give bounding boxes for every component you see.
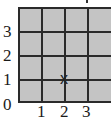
y-axis-label-0: 0	[3, 96, 12, 113]
coordinate-grid	[18, 7, 111, 103]
y-axis-label-1: 1	[3, 71, 12, 88]
point-marker: x	[60, 71, 68, 87]
grid-line-horizontal	[18, 31, 111, 33]
grid-line-horizontal	[18, 7, 111, 9]
y-axis-label-3: 3	[3, 23, 12, 40]
top-cropped-tick	[86, 0, 88, 3]
x-axis-label-1: 1	[37, 103, 46, 119]
grid-line-horizontal	[18, 55, 111, 57]
y-axis-label-2: 2	[3, 47, 12, 64]
x-axis-label-3: 3	[82, 103, 91, 119]
x-axis-label-2: 2	[60, 103, 69, 119]
